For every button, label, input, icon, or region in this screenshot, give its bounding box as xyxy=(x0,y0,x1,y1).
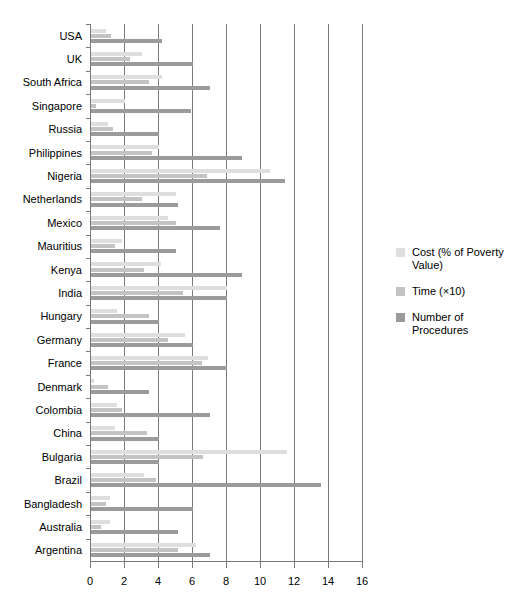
bar-time xyxy=(91,338,168,342)
x-tick-12 xyxy=(294,562,295,568)
bar-proc xyxy=(91,343,193,347)
legend-label-cost: Cost (% of Poverty Value) xyxy=(412,246,520,272)
x-tick-label-10: 10 xyxy=(254,575,266,587)
y-tick-label: Argentina xyxy=(35,544,82,556)
bar-proc xyxy=(91,553,210,557)
bar-cost xyxy=(91,450,287,454)
bar-row: Argentina xyxy=(91,539,362,562)
y-tick-label: France xyxy=(48,357,82,369)
y-tick-mark xyxy=(86,188,91,189)
bar-row: Mauritius xyxy=(91,235,362,258)
bar-proc xyxy=(91,109,191,113)
y-tick-mark xyxy=(86,258,91,259)
bar-proc xyxy=(91,507,193,511)
bar-proc xyxy=(91,62,193,66)
x-tick-14 xyxy=(328,562,329,568)
y-tick-label: Brazil xyxy=(54,474,82,486)
bar-cost xyxy=(91,543,196,547)
legend-label-time: Time (×10) xyxy=(412,285,465,298)
x-tick-16 xyxy=(362,562,363,568)
y-tick-mark xyxy=(86,235,91,236)
legend-item-procedures: Number of Procedures xyxy=(396,311,520,337)
bar-row: Netherlands xyxy=(91,188,362,211)
legend-swatch-time-icon xyxy=(396,287,405,296)
bar-proc xyxy=(91,530,178,534)
y-tick-mark xyxy=(86,398,91,399)
bar-cost xyxy=(91,403,117,407)
y-tick-label: Denmark xyxy=(37,381,82,393)
bar-time xyxy=(91,34,111,38)
bar-time xyxy=(91,197,142,201)
bar-row: China xyxy=(91,422,362,445)
legend-item-cost: Cost (% of Poverty Value) xyxy=(396,246,520,272)
bar-proc xyxy=(91,39,162,43)
bar-proc xyxy=(91,179,285,183)
bar-time xyxy=(91,548,178,552)
bar-time xyxy=(91,408,122,412)
legend-swatch-cost-icon xyxy=(396,248,405,257)
chart-legend: Cost (% of Poverty Value) Time (×10) Num… xyxy=(396,246,520,350)
bar-proc xyxy=(91,320,159,324)
y-tick-label: Kenya xyxy=(51,264,82,276)
x-tick-4 xyxy=(158,562,159,568)
x-tick-2 xyxy=(124,562,125,568)
y-tick-label: USA xyxy=(59,30,82,42)
bar-row: Bangladesh xyxy=(91,492,362,515)
y-tick-mark xyxy=(86,515,91,516)
bar-proc xyxy=(91,226,220,230)
bar-row: UK xyxy=(91,47,362,70)
bar-cost xyxy=(91,473,144,477)
y-tick-label: Colombia xyxy=(36,404,82,416)
bar-row: USA xyxy=(91,24,362,47)
bar-cost xyxy=(91,239,122,243)
y-tick-label: India xyxy=(58,287,82,299)
bar-proc xyxy=(91,296,227,300)
bar-time xyxy=(91,455,203,459)
bar-cost xyxy=(91,262,161,266)
bar-row: France xyxy=(91,351,362,374)
chart-root: 0246810121416 USAUKSouth AfricaSingapore… xyxy=(0,0,522,614)
bar-row: India xyxy=(91,281,362,304)
y-tick-mark xyxy=(86,71,91,72)
y-tick-mark xyxy=(86,375,91,376)
y-tick-label: Bulgaria xyxy=(42,451,82,463)
x-tick-label-16: 16 xyxy=(356,575,368,587)
bar-cost xyxy=(91,379,94,383)
y-tick-label: Hungary xyxy=(40,310,82,322)
bar-row: Germany xyxy=(91,328,362,351)
bar-cost xyxy=(91,99,125,103)
bar-time xyxy=(91,127,113,131)
bar-rows: USAUKSouth AfricaSingaporeRussiaPhilippi… xyxy=(90,24,362,561)
bar-cost xyxy=(91,122,108,126)
y-tick-label: South Africa xyxy=(23,76,82,88)
y-tick-label: Mauritius xyxy=(37,240,82,252)
y-tick-mark xyxy=(86,281,91,282)
bar-time xyxy=(91,478,156,482)
y-tick-label: Russia xyxy=(48,123,82,135)
y-tick-mark xyxy=(86,141,91,142)
bar-proc xyxy=(91,390,149,394)
y-tick-mark xyxy=(86,328,91,329)
y-tick-mark xyxy=(86,24,91,25)
bar-time xyxy=(91,525,101,529)
bar-row: Singapore xyxy=(91,94,362,117)
bar-proc xyxy=(91,203,178,207)
bar-time xyxy=(91,151,152,155)
legend-item-time: Time (×10) xyxy=(396,285,520,298)
y-tick-mark xyxy=(86,211,91,212)
x-tick-label-6: 6 xyxy=(189,575,195,587)
bar-cost xyxy=(91,216,168,220)
y-tick-mark xyxy=(86,422,91,423)
bar-row: Denmark xyxy=(91,375,362,398)
y-tick-label: Germany xyxy=(37,334,82,346)
y-tick-mark xyxy=(86,492,91,493)
bar-cost xyxy=(91,356,208,360)
bar-time xyxy=(91,314,149,318)
bar-proc xyxy=(91,132,159,136)
bar-cost xyxy=(91,333,185,337)
bar-proc xyxy=(91,86,210,90)
legend-swatch-procedures-icon xyxy=(396,313,405,322)
x-tick-label-2: 2 xyxy=(121,575,127,587)
bar-row: Hungary xyxy=(91,305,362,328)
bar-time xyxy=(91,431,147,435)
